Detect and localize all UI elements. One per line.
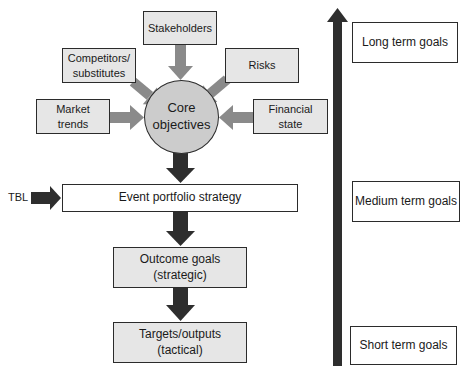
arrow-stakeholders	[168, 44, 193, 80]
financial-state-box: Financial state	[253, 99, 328, 134]
market-trends-box: Market trends	[36, 99, 110, 134]
event-portfolio-strategy-box: Event portfolio strategy	[62, 184, 298, 212]
arrow-outcome-to-targets	[166, 288, 195, 321]
targets-outputs-box: Targets/outputs (tactical)	[113, 322, 247, 363]
stakeholders-box: Stakeholders	[143, 11, 217, 45]
arrow-financial-state	[219, 105, 253, 130]
core-objectives-circle: Core objectives	[144, 80, 219, 154]
timeline-arrow	[327, 8, 348, 366]
arrow-strategy-to-outcome	[166, 212, 195, 246]
competitors-box: Competitors/ substitutes	[62, 48, 136, 83]
risks-box: Risks	[225, 48, 299, 83]
medium-term-goals-box: Medium term goals	[352, 181, 460, 222]
outcome-goals-box: Outcome goals (strategic)	[113, 247, 247, 288]
short-term-goals-box: Short term goals	[350, 326, 457, 365]
arrow-core-to-strategy	[166, 153, 195, 183]
arrow-market-trends	[110, 105, 144, 130]
tbl-label: TBL	[8, 191, 28, 203]
long-term-goals-box: Long term goals	[352, 22, 458, 63]
arrow-tbl	[31, 186, 61, 210]
